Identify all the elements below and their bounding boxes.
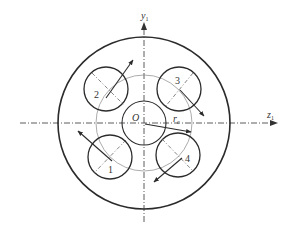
radius-arrow-icon: [145, 124, 191, 132]
arrow-up-icon: [141, 22, 147, 30]
hole-label-1: 1: [108, 164, 113, 175]
center-label: O: [132, 112, 139, 123]
hole-label-2: 2: [94, 89, 99, 100]
radius-label: rc: [173, 113, 180, 125]
z-axis-label: z1: [266, 109, 274, 121]
arrow-icon: [154, 158, 182, 182]
hole-label-3: 3: [175, 75, 180, 86]
cross-section-diagram: y1 z1 O rc 2 3 1 4: [0, 0, 291, 240]
vertical-axis: [141, 22, 147, 222]
hole-1: [78, 131, 132, 179]
y-axis-label: y1: [140, 10, 148, 22]
hole-2: [84, 60, 133, 111]
hole-label-4: 4: [185, 153, 190, 164]
arrow-icon: [106, 60, 133, 98]
